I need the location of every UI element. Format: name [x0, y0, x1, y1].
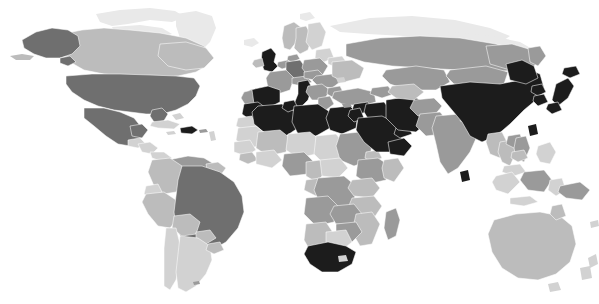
country-new-zealand-south [580, 266, 592, 280]
world-map-figure [0, 0, 599, 304]
world-map-canvas [0, 0, 599, 304]
country-libya [292, 104, 330, 136]
